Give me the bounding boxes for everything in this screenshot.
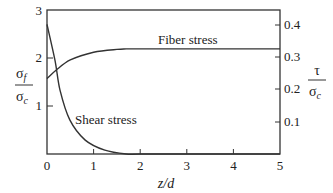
x-tick-2: 2 — [137, 158, 144, 173]
right-axis-tick-labels: 0.1 0.2 0.3 0.4 — [284, 17, 301, 129]
x-tick-3: 3 — [184, 158, 191, 173]
yr-tick-0.2: 0.2 — [284, 81, 300, 96]
yr-tick-0.1: 0.1 — [284, 114, 300, 129]
left-axis-ticks — [47, 58, 53, 106]
fiber-stress-curve — [47, 49, 280, 79]
fiber-stress-label: Fiber stress — [158, 32, 218, 47]
left-axis-tick-labels: 1 2 3 — [36, 3, 43, 113]
left-label-numerator: σf — [16, 66, 28, 83]
yr-tick-0.3: 0.3 — [284, 49, 300, 64]
left-label-denominator: σc — [16, 89, 29, 106]
yl-tick-1: 1 — [36, 98, 43, 113]
right-axis-label: τ σc — [308, 63, 326, 101]
x-tick-0: 0 — [44, 158, 51, 173]
yr-tick-0.4: 0.4 — [284, 17, 301, 32]
x-tick-1: 1 — [90, 158, 97, 173]
x-axis-tick-labels: 0 1 2 3 4 5 — [44, 158, 284, 173]
yl-tick-2: 2 — [36, 50, 43, 65]
stress-chart: 0 1 2 3 4 5 z/d 1 2 3 σf σc 0.1 0.2 0.3 … — [0, 0, 333, 193]
yl-tick-3: 3 — [36, 3, 43, 18]
x-axis-ticks — [94, 149, 234, 154]
x-tick-5: 5 — [277, 158, 284, 173]
right-label-denominator: σc — [309, 84, 322, 101]
left-axis-label: σf σc — [15, 66, 33, 106]
right-label-numerator: τ — [314, 63, 320, 78]
shear-stress-label: Shear stress — [75, 112, 137, 127]
x-axis-label: z/d — [157, 176, 175, 191]
right-axis-ticks — [275, 25, 280, 122]
x-tick-4: 4 — [230, 158, 237, 173]
